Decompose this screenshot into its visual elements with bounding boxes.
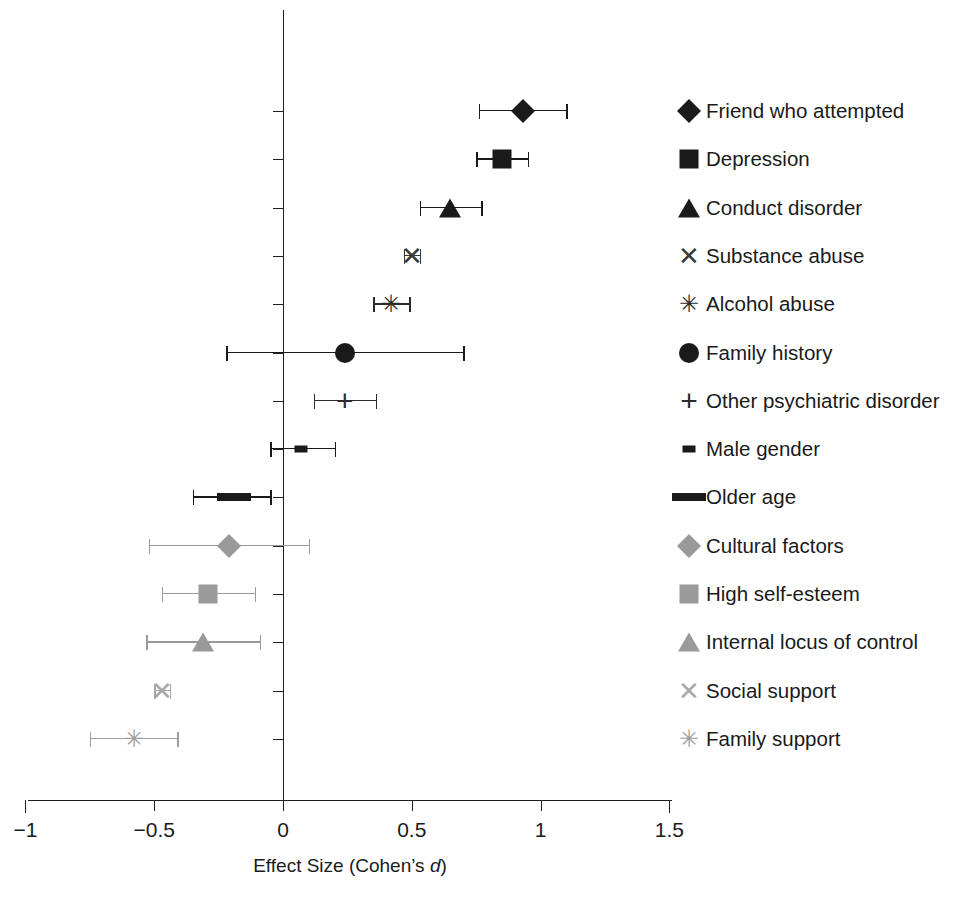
data-row: + xyxy=(0,386,700,416)
confidence-interval-cap-high xyxy=(528,152,529,167)
confidence-interval-cap-high xyxy=(309,539,310,554)
legend-item[interactable]: ✕Substance abuse xyxy=(672,241,864,271)
confidence-interval-cap-high xyxy=(177,732,178,747)
legend-item[interactable]: Friend who attempted xyxy=(672,96,904,126)
marker-dash-large-point xyxy=(217,493,251,501)
data-row xyxy=(0,531,700,561)
marker-square-legend xyxy=(680,585,699,604)
legend-key xyxy=(672,434,706,464)
marker-triangle-point xyxy=(192,633,214,652)
legend-label: Conduct disorder xyxy=(706,196,862,220)
confidence-interval-cap-low xyxy=(146,635,147,650)
marker-square-legend xyxy=(680,150,699,169)
data-row xyxy=(0,96,700,126)
data-row xyxy=(0,579,700,609)
marker-asterisk-legend: ✳ xyxy=(679,727,699,751)
axis-row-tick xyxy=(273,159,283,160)
axis-row-tick xyxy=(273,739,283,740)
confidence-interval-cap-low xyxy=(193,490,194,505)
axis-row-tick xyxy=(273,256,283,257)
x-axis-title: Effect Size (Cohen’s d) xyxy=(0,855,700,877)
marker-square-point xyxy=(492,150,511,169)
axis-row-tick xyxy=(273,353,283,354)
legend-label: Family history xyxy=(706,341,832,365)
data-row xyxy=(0,482,700,512)
x-tick-label: −0.5 xyxy=(133,818,174,842)
x-tick xyxy=(25,800,26,813)
marker-cross-x-point: ✕ xyxy=(151,678,173,704)
legend-item[interactable]: ✳Alcohol abuse xyxy=(672,289,835,319)
legend-label: Alcohol abuse xyxy=(706,292,835,316)
confidence-interval-cap-low xyxy=(476,152,477,167)
confidence-interval-cap-low xyxy=(162,587,163,602)
legend-item[interactable]: +Other psychiatric disorder xyxy=(672,386,940,416)
confidence-interval-cap-high xyxy=(566,104,567,119)
x-axis-line xyxy=(28,800,672,801)
data-row: ✕ xyxy=(0,676,700,706)
legend-item[interactable]: Depression xyxy=(672,144,810,174)
data-row: ✳ xyxy=(0,724,700,754)
legend-label: High self-esteem xyxy=(706,582,860,606)
x-tick-label: 0 xyxy=(277,818,289,842)
legend-key xyxy=(672,482,706,512)
axis-row-tick xyxy=(273,691,283,692)
confidence-interval-cap-low xyxy=(90,732,91,747)
confidence-interval-cap-low xyxy=(314,394,315,409)
data-row xyxy=(0,338,700,368)
axis-row-tick xyxy=(273,111,283,112)
data-row xyxy=(0,627,700,657)
axis-row-tick xyxy=(273,208,283,209)
marker-dash-small-point xyxy=(295,446,308,453)
legend-item[interactable]: Conduct disorder xyxy=(672,193,862,223)
axis-row-tick xyxy=(273,304,283,305)
legend-item[interactable]: ✳Family support xyxy=(672,724,840,754)
legend-key xyxy=(672,96,706,126)
forest-plot-figure: ✕✳+✕✳ −1−0.500.511.5 Effect Size (Cohen’… xyxy=(0,0,960,910)
legend-item[interactable]: Family history xyxy=(672,338,832,368)
data-row: ✕ xyxy=(0,241,700,271)
confidence-interval-cap-low xyxy=(270,442,271,457)
legend-item[interactable]: Internal locus of control xyxy=(672,627,918,657)
axis-row-tick xyxy=(273,594,283,595)
confidence-interval-cap-high xyxy=(481,201,482,216)
legend-item[interactable]: Male gender xyxy=(672,434,820,464)
legend-item[interactable]: Older age xyxy=(672,482,796,512)
marker-diamond-point xyxy=(217,534,241,558)
marker-plus-legend: + xyxy=(680,386,698,416)
plot-area: ✕✳+✕✳ −1−0.500.511.5 Effect Size (Cohen’… xyxy=(0,0,700,840)
legend: Friend who attemptedDepressionConduct di… xyxy=(672,0,960,840)
legend-label: Cultural factors xyxy=(706,534,844,558)
legend-key xyxy=(672,144,706,174)
x-axis-title-italic: d xyxy=(430,855,441,876)
legend-label: Substance abuse xyxy=(706,244,864,268)
x-tick xyxy=(412,800,413,811)
x-tick-label: 0.5 xyxy=(397,818,426,842)
data-row xyxy=(0,434,700,464)
legend-key xyxy=(672,531,706,561)
x-tick xyxy=(154,800,155,811)
axis-row-tick xyxy=(273,449,283,450)
x-tick xyxy=(283,800,284,811)
x-axis-title-text: Effect Size (Cohen’s xyxy=(253,855,430,876)
marker-triangle-legend xyxy=(678,198,700,217)
marker-diamond-legend xyxy=(677,534,701,558)
x-axis-title-close: ) xyxy=(440,855,446,876)
confidence-interval-cap-high xyxy=(270,490,271,505)
marker-asterisk-point: ✳ xyxy=(124,727,144,751)
confidence-interval-cap-low xyxy=(149,539,150,554)
legend-item[interactable]: Cultural factors xyxy=(672,531,844,561)
legend-label: Family support xyxy=(706,727,840,751)
confidence-interval-cap-low xyxy=(420,201,421,216)
x-tick-label: 1 xyxy=(535,818,547,842)
data-row xyxy=(0,144,700,174)
marker-circle-legend xyxy=(679,343,699,363)
legend-label: Male gender xyxy=(706,437,820,461)
confidence-interval-cap-low xyxy=(373,297,374,312)
x-tick xyxy=(541,800,542,811)
confidence-interval-cap-high xyxy=(409,297,410,312)
legend-item[interactable]: High self-esteem xyxy=(672,579,860,609)
legend-item[interactable]: ✕Social support xyxy=(672,676,836,706)
legend-key: ✳ xyxy=(672,724,706,754)
axis-row-tick xyxy=(273,401,283,402)
confidence-interval-cap-low xyxy=(226,346,227,361)
